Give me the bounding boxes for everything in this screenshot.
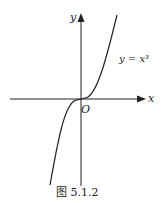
x-axis-label: x xyxy=(148,93,154,104)
cubic-graph xyxy=(0,0,166,203)
figure-caption: 图 5.1.2 xyxy=(56,187,99,198)
y-axis-arrow-icon xyxy=(78,13,85,22)
x-axis-arrow-icon xyxy=(137,96,146,103)
cubic-curve xyxy=(50,15,117,185)
origin-label: O xyxy=(81,104,90,115)
y-axis-label: y xyxy=(70,12,76,23)
curve-label: y = x³ xyxy=(119,54,149,64)
